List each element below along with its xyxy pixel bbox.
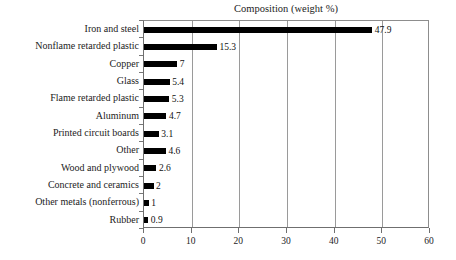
bar-value-label: 47.9 <box>372 25 391 35</box>
bar-row: 5.3 <box>144 90 428 107</box>
bar-value-label: 2 <box>154 181 161 191</box>
bar[interactable] <box>144 96 169 102</box>
category-label: Glass <box>0 72 139 89</box>
category-label: Other <box>0 141 139 158</box>
x-tick-label: 60 <box>414 235 444 247</box>
bar-value-label: 7 <box>177 59 184 69</box>
bar-row: 2.6 <box>144 160 428 177</box>
bar[interactable] <box>144 113 166 119</box>
category-label: Nonflame retarded plastic <box>0 37 139 54</box>
x-tick-label: 30 <box>271 235 301 247</box>
x-tick <box>381 228 382 233</box>
bar[interactable] <box>144 79 170 85</box>
x-tick <box>191 228 192 233</box>
category-label: Wood and plywood <box>0 159 139 176</box>
bar-value-label: 5.3 <box>169 94 183 104</box>
chart-title: Composition (weight %) <box>143 2 429 16</box>
bar-value-label: 15.3 <box>217 42 236 52</box>
bar-value-label: 1 <box>149 198 156 208</box>
x-tick-label: 50 <box>366 235 396 247</box>
composition-bar-chart: Composition (weight %) Iron and steelNon… <box>0 0 456 260</box>
bar-row: 4.6 <box>144 142 428 159</box>
category-label: Iron and steel <box>0 20 139 37</box>
bar[interactable] <box>144 44 217 50</box>
category-label: Flame retarded plastic <box>0 89 139 106</box>
plot-area: 47.915.375.45.34.73.14.62.6210.9 <box>143 20 429 228</box>
x-tick-label: 10 <box>176 235 206 247</box>
bar-row: 5.4 <box>144 73 428 90</box>
bar[interactable] <box>144 165 156 171</box>
bar[interactable] <box>144 148 166 154</box>
category-label: Other metals (nonferrous) <box>0 193 139 210</box>
bar-row: 1 <box>144 194 428 211</box>
bar[interactable] <box>144 27 372 33</box>
category-label: Concrete and ceramics <box>0 176 139 193</box>
bar-row: 47.9 <box>144 21 428 38</box>
bar-row: 4.7 <box>144 108 428 125</box>
bar-value-label: 5.4 <box>170 77 184 87</box>
x-tick <box>143 228 144 233</box>
bar-row: 15.3 <box>144 38 428 55</box>
bar-row: 3.1 <box>144 125 428 142</box>
category-label: Printed circuit boards <box>0 124 139 141</box>
bar-row: 2 <box>144 177 428 194</box>
x-tick-label: 20 <box>223 235 253 247</box>
bar[interactable] <box>144 61 177 67</box>
bar-value-label: 4.7 <box>166 111 180 121</box>
x-tick <box>429 228 430 233</box>
bar-row: 0.9 <box>144 212 428 229</box>
category-label: Copper <box>0 55 139 72</box>
x-tick <box>238 228 239 233</box>
x-tick <box>286 228 287 233</box>
category-label: Rubber <box>0 211 139 228</box>
bar-row: 7 <box>144 56 428 73</box>
category-label: Aluminum <box>0 107 139 124</box>
bar-value-label: 3.1 <box>159 129 173 139</box>
bar[interactable] <box>144 183 154 189</box>
bar-value-label: 0.9 <box>148 215 162 225</box>
bar-value-label: 4.6 <box>166 146 180 156</box>
x-tick-label: 40 <box>319 235 349 247</box>
bar[interactable] <box>144 131 159 137</box>
x-tick <box>334 228 335 233</box>
bar-value-label: 2.6 <box>156 163 170 173</box>
x-tick-label: 0 <box>128 235 158 247</box>
